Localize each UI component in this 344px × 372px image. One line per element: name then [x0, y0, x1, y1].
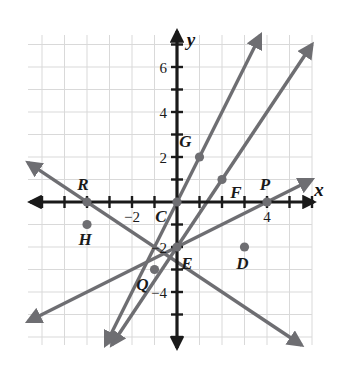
data-point-P — [262, 197, 271, 206]
data-point-Q — [150, 265, 159, 274]
coordinate-plane-figure: −24642−2−4 RHCGFPEDQ x y — [0, 0, 344, 372]
point-label-C: C — [155, 207, 167, 226]
point-label-D: D — [235, 254, 248, 273]
data-point-C-origin — [172, 197, 181, 206]
y-tick-label: −4 — [151, 285, 167, 301]
data-point-D — [240, 242, 249, 251]
coordinate-plane-svg: −24642−2−4 RHCGFPEDQ x y — [0, 0, 344, 372]
x-tick-label: −2 — [124, 209, 140, 225]
data-point-E — [172, 242, 181, 251]
y-tick-label: 6 — [160, 60, 168, 76]
x-tick-label: 4 — [263, 209, 271, 225]
point-label-H: H — [77, 230, 92, 249]
data-point-R — [82, 197, 91, 206]
x-axis-label: x — [313, 179, 324, 200]
point-label-E: E — [180, 254, 192, 273]
y-tick-label: −2 — [151, 240, 167, 256]
point-label-R: R — [76, 175, 88, 194]
point-label-G: G — [179, 132, 192, 151]
point-label-Q: Q — [136, 275, 148, 294]
y-tick-label: 2 — [160, 150, 168, 166]
point-label-P: P — [259, 175, 271, 194]
point-label-F: F — [229, 183, 242, 202]
data-point-F — [217, 175, 226, 184]
y-tick-label: 4 — [160, 105, 168, 121]
data-point-H — [82, 220, 91, 229]
data-point-G — [195, 152, 204, 161]
y-axis-label: y — [185, 29, 196, 50]
